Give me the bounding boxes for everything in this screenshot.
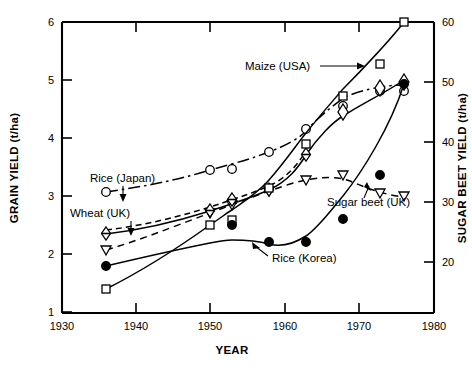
y2tick-label-40: 40 <box>442 136 454 148</box>
data-point-marker <box>265 148 274 157</box>
ytick-label-1: 1 <box>48 306 54 318</box>
wheat-uk-markers <box>102 74 410 240</box>
data-point-marker <box>102 262 111 271</box>
y2tick-label-50: 50 <box>442 76 454 88</box>
chart-container: 6 5 4 3 2 1 60 50 40 30 20 <box>0 0 472 368</box>
data-point-marker <box>339 92 347 100</box>
data-point-marker <box>302 238 311 247</box>
series-label-rice-korea: Rice (Korea) <box>272 252 337 264</box>
arrow-head-icon <box>128 228 135 236</box>
bottom-axis-ticks: 1930 1940 1950 1960 1970 1980 <box>50 303 446 332</box>
data-point-marker <box>206 221 214 229</box>
xtick-label-1930: 1930 <box>50 320 74 332</box>
annotation-rice-korea: Rice (Korea) <box>252 242 337 264</box>
series-label-wheat-uk: Wheat (UK) <box>70 207 130 219</box>
annotation-rice-japan: Rice (Japan) <box>90 172 155 202</box>
xtick-label-1970: 1970 <box>347 320 371 332</box>
right-axis-ticks: 60 50 40 30 20 <box>424 16 454 268</box>
y2tick-label-60: 60 <box>442 16 454 28</box>
data-point-marker <box>228 165 237 174</box>
data-point-marker <box>228 221 237 230</box>
data-point-marker <box>400 80 409 89</box>
ytick-label-3: 3 <box>48 190 54 202</box>
y2tick-label-20: 20 <box>442 256 454 268</box>
sugar-beet-uk-curve <box>106 178 404 250</box>
x-axis-title: YEAR <box>215 344 249 356</box>
data-point-marker <box>102 285 110 293</box>
data-point-marker <box>302 140 310 148</box>
data-point-marker <box>376 60 384 68</box>
y-axis-title: GRAIN YIELD (t/ha) <box>8 113 20 224</box>
xtick-label-1980: 1980 <box>422 320 446 332</box>
data-point-marker <box>265 238 274 247</box>
top-axis-ticks <box>136 22 359 32</box>
xtick-label-1940: 1940 <box>124 320 148 332</box>
annotation-maize-usa: Maize (USA) <box>245 60 365 72</box>
series-label-sugar-beet-uk: Sugar beet (UK) <box>327 196 410 208</box>
y2-axis-title: SUGAR BEET YIELD (t/ha) <box>456 93 468 243</box>
arrow-head-icon <box>120 194 127 202</box>
y2tick-label-30: 30 <box>442 196 454 208</box>
ytick-label-5: 5 <box>48 74 54 86</box>
ytick-label-2: 2 <box>48 248 54 260</box>
ytick-label-4: 4 <box>48 132 54 144</box>
arrow-head-icon <box>252 242 260 249</box>
series-label-rice-japan: Rice (Japan) <box>90 172 155 184</box>
data-point-marker <box>102 188 111 197</box>
data-point-marker <box>101 246 111 255</box>
data-point-marker <box>265 184 273 192</box>
series-label-maize-usa: Maize (USA) <box>245 60 310 72</box>
annotation-sugar-beet-uk: Sugar beet (UK) <box>327 182 410 208</box>
wheat-uk-curve-dashed <box>106 151 306 230</box>
left-axis-ticks: 6 5 4 3 2 1 <box>48 16 72 318</box>
data-point-marker <box>376 171 385 180</box>
xtick-label-1950: 1950 <box>198 320 222 332</box>
series-wheat-uk <box>102 74 410 240</box>
data-point-marker <box>339 215 348 224</box>
xtick-label-1960: 1960 <box>273 320 297 332</box>
ytick-label-6: 6 <box>48 16 54 28</box>
yield-trends-line-chart: 6 5 4 3 2 1 60 50 40 30 20 <box>0 0 472 368</box>
data-point-marker <box>206 166 215 175</box>
data-point-marker <box>400 18 408 26</box>
